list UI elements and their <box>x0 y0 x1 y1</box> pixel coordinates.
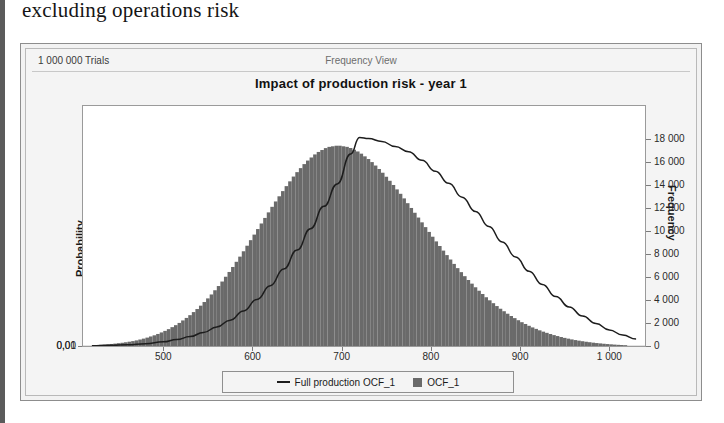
plot-container: Probability Frequency 0,000,0102 0004 00… <box>82 105 646 347</box>
x-tick-mark <box>163 347 164 351</box>
x-tick-mark <box>342 347 343 351</box>
y-right-tick-label: 12 000 <box>654 202 700 213</box>
plot-area <box>82 105 646 347</box>
x-tick-mark <box>431 347 432 351</box>
y-right-tick-mark <box>646 300 651 301</box>
legend-label: Full production OCF_1 <box>295 377 396 388</box>
y-right-tick-label: 8 000 <box>654 248 700 259</box>
y-right-tick-mark <box>646 185 651 186</box>
chart-svg <box>83 106 645 346</box>
y-right-tick-mark <box>646 208 651 209</box>
x-tick-label: 600 <box>227 351 277 362</box>
y-right-tick-mark <box>646 162 651 163</box>
x-tick-label: 900 <box>495 351 545 362</box>
y-right-tick-label: 18 000 <box>654 133 700 144</box>
header-divider <box>32 71 690 72</box>
chart-panel-inner: 1 000 000 Trials Frequency View Impact o… <box>25 48 697 396</box>
x-tick-label: 700 <box>317 351 367 362</box>
y-right-tick-mark <box>646 254 651 255</box>
y-left-tick-mark <box>78 346 82 347</box>
y-right-tick-label: 10 000 <box>654 225 700 236</box>
y-right-tick-label: 16 000 <box>654 156 700 167</box>
page-heading: excluding operations risk <box>22 0 239 23</box>
y-right-tick-mark <box>646 277 651 278</box>
y-right-tick-label: 6 000 <box>654 271 700 282</box>
y-right-tick-label: 2 000 <box>654 317 700 328</box>
y-right-tick-mark <box>646 346 651 347</box>
y-right-tick-label: 0 <box>654 340 700 351</box>
x-tick-label: 1 000 <box>584 351 634 362</box>
y-right-tick-mark <box>646 139 651 140</box>
square-marker-icon <box>413 378 422 387</box>
page-edge-gutter <box>0 0 5 423</box>
legend-item-line: Full production OCF_1 <box>277 377 396 388</box>
y-right-tick-label: 4 000 <box>654 294 700 305</box>
x-tick-label: 800 <box>406 351 456 362</box>
histogram-bars <box>92 146 627 346</box>
y-right-tick-mark <box>646 231 651 232</box>
chart-panel: 1 000 000 Trials Frequency View Impact o… <box>20 43 702 401</box>
chart-legend: Full production OCF_1 OCF_1 <box>222 371 514 393</box>
line-marker-icon <box>277 381 290 383</box>
y-right-tick-mark <box>646 323 651 324</box>
x-tick-mark <box>609 347 610 351</box>
legend-item-histogram: OCF_1 <box>413 377 459 388</box>
x-tick-mark <box>520 347 521 351</box>
x-tick-mark <box>252 347 253 351</box>
y-left-tick-label: 0,01 <box>36 340 76 351</box>
y-right-tick-label: 14 000 <box>654 179 700 190</box>
chart-title: Impact of production risk - year 1 <box>26 76 696 91</box>
legend-label: OCF_1 <box>427 377 459 388</box>
view-mode-label: Frequency View <box>26 55 696 66</box>
x-tick-label: 500 <box>138 351 188 362</box>
